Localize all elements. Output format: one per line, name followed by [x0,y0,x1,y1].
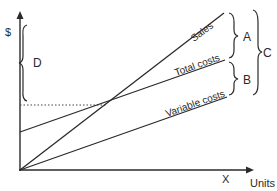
variable-costs-line: Variable costs [20,88,227,170]
sales-line: Sales [20,13,224,170]
brace-c-label: C [263,46,272,60]
x-axis-arrow-icon [246,167,254,174]
breakeven-diagram: $ X Units Sales Total costs Variable cos… [0,0,277,191]
brace-d: D [19,25,42,101]
y-axis-label: $ [5,26,11,38]
sales-label: Sales [189,20,216,44]
brace-a: A [229,13,251,58]
total-costs-label: Total costs [173,52,221,78]
y-axis: $ [5,11,24,171]
brace-d-label: D [33,56,42,70]
brace-b-label: B [243,73,251,87]
brace-a-label: A [243,30,251,44]
x-axis-marker: X [222,173,230,185]
brace-b: B [229,62,251,95]
y-axis-arrow-icon [17,11,24,19]
x-axis-label: Units [250,177,276,189]
variable-costs-label: Variable costs [164,88,226,119]
x-axis: X Units [19,167,276,190]
brace-c: C [253,10,272,95]
